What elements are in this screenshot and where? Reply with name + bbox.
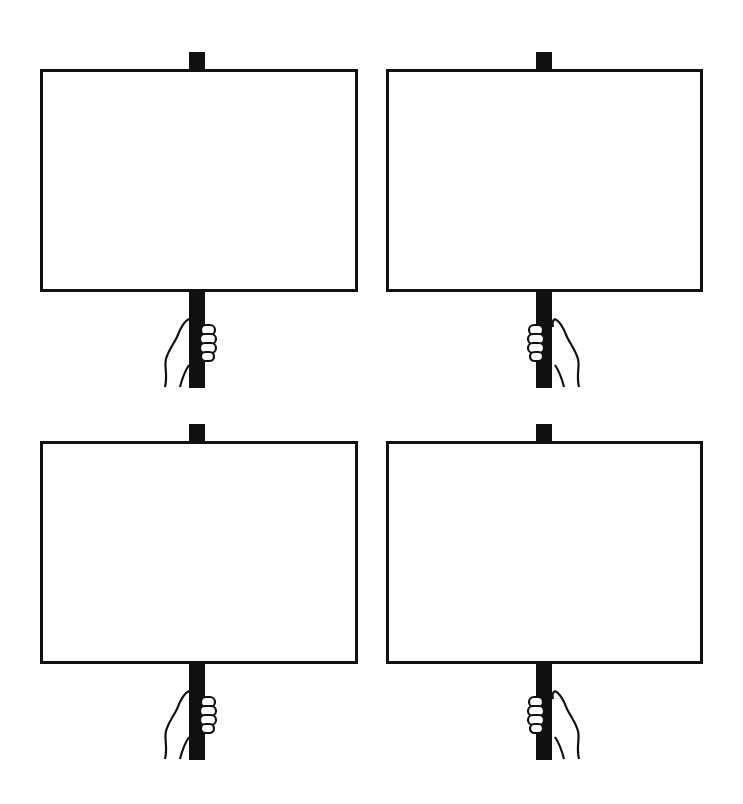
hand-icon bbox=[524, 315, 584, 390]
pole-top bbox=[536, 52, 552, 70]
sign-board bbox=[40, 441, 358, 664]
sign-board bbox=[386, 69, 703, 292]
sign-text bbox=[389, 72, 700, 289]
hand-icon bbox=[160, 315, 220, 390]
hand-icon bbox=[524, 687, 584, 762]
hand-icon bbox=[160, 687, 220, 762]
pole-top bbox=[536, 424, 552, 442]
sign-text bbox=[43, 444, 355, 661]
sign-board bbox=[40, 69, 358, 292]
pole-top bbox=[189, 424, 205, 442]
sign-text bbox=[43, 72, 355, 289]
pole-top bbox=[189, 52, 205, 70]
sign-text bbox=[389, 444, 700, 661]
sign-board bbox=[386, 441, 703, 664]
